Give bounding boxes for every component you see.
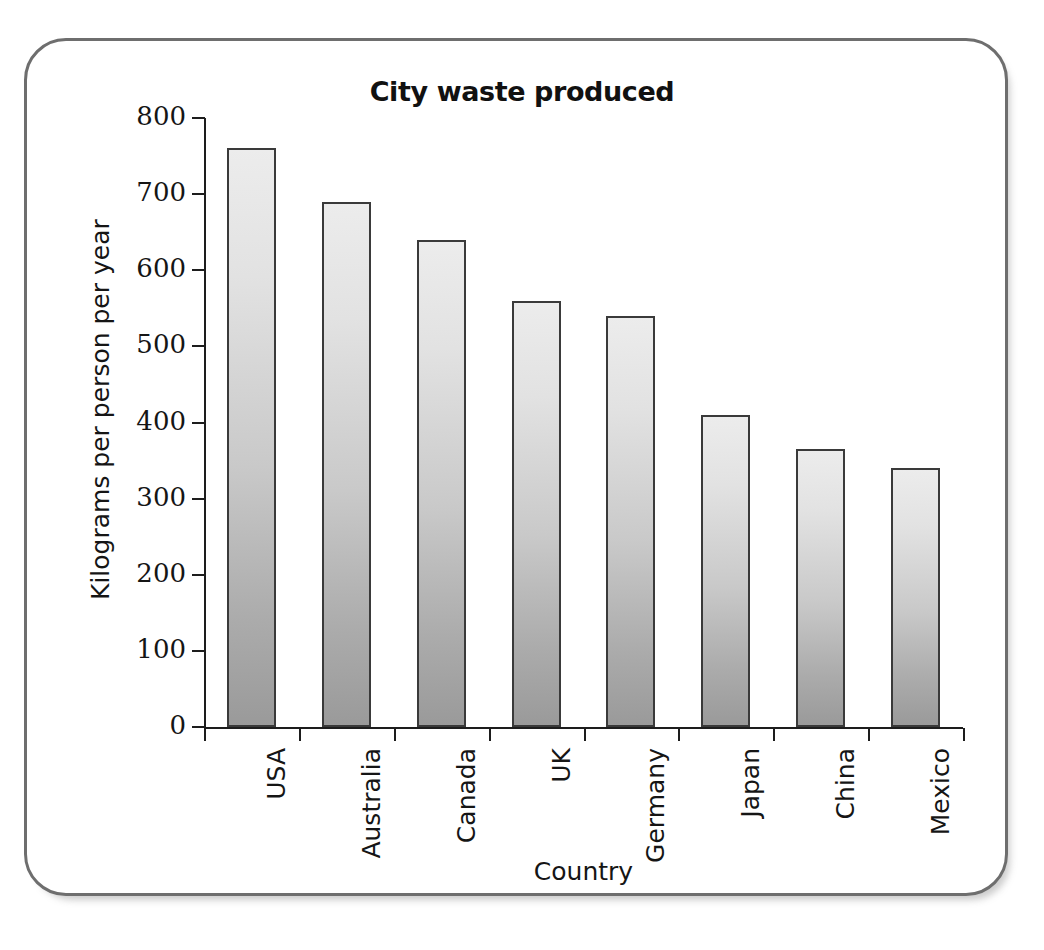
bar	[417, 240, 466, 727]
bar	[227, 148, 276, 727]
bar	[796, 449, 845, 727]
y-axis-tick	[192, 345, 205, 347]
y-axis-tick-label-text: 700	[66, 177, 186, 207]
y-axis-tick	[192, 498, 205, 500]
y-axis-tick-label-text: 300	[66, 482, 186, 512]
y-axis-tick-label-text: 600	[66, 253, 186, 283]
y-axis-tick	[192, 117, 205, 119]
y-axis-tick-label: 400	[48, 406, 186, 436]
y-axis-tick-label-text: 400	[66, 406, 186, 436]
bar	[701, 415, 750, 727]
y-axis-tick-label: 300	[48, 482, 186, 512]
y-axis-tick-label: 100	[48, 634, 186, 664]
x-axis-tick	[773, 728, 775, 741]
x-axis-label: Germany	[641, 748, 671, 950]
x-axis-label: Mexico	[926, 748, 956, 950]
y-axis-tick	[192, 269, 205, 271]
x-axis-label: Japan	[736, 748, 766, 950]
y-axis-tick	[192, 574, 205, 576]
y-axis-tick	[192, 650, 205, 652]
x-axis-tick	[963, 728, 965, 741]
y-axis-tick-label-text: 800	[66, 101, 186, 131]
y-axis-tick-label: 700	[48, 177, 186, 207]
y-axis-tick-label-text: 500	[66, 329, 186, 359]
y-axis-tick	[192, 422, 205, 424]
y-axis-tick-label-text: 100	[66, 634, 186, 664]
bar-chart: City waste produced Kilograms per person…	[0, 0, 1044, 950]
bar	[606, 316, 655, 727]
x-axis-label: Australia	[357, 748, 387, 950]
x-axis-tick	[678, 728, 680, 741]
x-axis-tick	[584, 728, 586, 741]
bar	[891, 468, 940, 727]
x-axis-tick	[394, 728, 396, 741]
y-axis-tick-label-text: 200	[66, 558, 186, 588]
x-axis-tick	[204, 728, 206, 741]
x-axis-label: China	[831, 748, 861, 950]
x-axis-label: Canada	[452, 748, 482, 950]
x-axis-label: UK	[547, 748, 577, 950]
bar	[322, 202, 371, 727]
bar	[512, 301, 561, 727]
y-axis-line	[204, 118, 206, 729]
y-axis-tick-label: 0	[48, 710, 186, 740]
x-axis-tick	[868, 728, 870, 741]
y-axis-tick-label: 500	[48, 329, 186, 359]
x-axis-tick	[299, 728, 301, 741]
y-axis-tick-label: 800	[48, 101, 186, 131]
y-axis-tick-label: 200	[48, 558, 186, 588]
x-axis-title: Country	[204, 857, 963, 886]
x-axis-label: USA	[262, 748, 292, 950]
x-axis-tick	[489, 728, 491, 741]
y-axis-tick	[192, 193, 205, 195]
y-axis-tick-label: 600	[48, 253, 186, 283]
y-axis-tick-label-text: 0	[66, 710, 186, 740]
